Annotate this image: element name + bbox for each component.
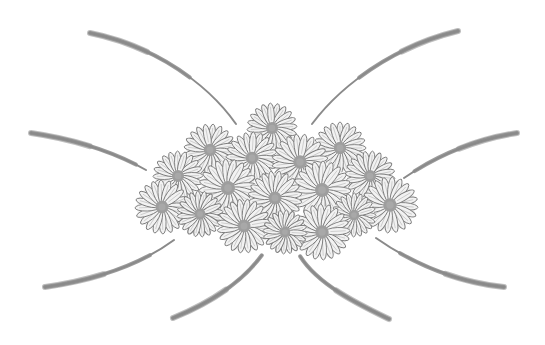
top-right-stroke: [312, 31, 458, 124]
bottom-right-stroke: [300, 256, 389, 319]
mid-right-stroke: [404, 133, 517, 178]
mid-right-stroke: [404, 133, 517, 178]
daisy-cluster: [135, 103, 418, 260]
low-left-stroke: [45, 240, 174, 287]
daisy-bouquet-illustration: [0, 0, 545, 345]
low-left-stroke: [45, 240, 174, 287]
low-right-stroke: [376, 238, 504, 287]
low-left-stroke: [45, 240, 174, 287]
top-right-stroke: [312, 31, 458, 124]
daisy-flower: [217, 199, 271, 253]
bottom-left-stroke: [173, 255, 262, 318]
bottom-left-stroke: [173, 255, 262, 318]
top-right-stroke: [312, 31, 458, 124]
daisy-flower: [177, 191, 223, 237]
bottom-left-stroke: [173, 255, 262, 318]
mid-left-stroke: [31, 133, 146, 170]
top-left-stroke: [90, 33, 236, 124]
top-left-stroke: [90, 33, 236, 124]
mid-right-stroke: [404, 133, 517, 178]
low-right-stroke: [376, 238, 504, 287]
top-left-stroke: [90, 33, 236, 124]
low-right-stroke: [376, 238, 504, 287]
